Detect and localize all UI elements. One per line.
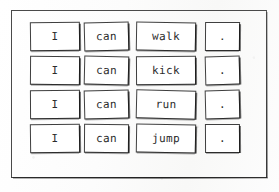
word-card-action[interactable]: kick [136,56,196,85]
word-card-label: . [219,31,226,42]
word-card-punctuation[interactable]: . [205,56,241,86]
sentence-row-4: I can jump . [0,124,279,158]
word-card-label: I [51,31,58,42]
word-card-label: I [51,65,58,76]
word-card-label: . [219,99,226,110]
word-card-label: I [51,99,58,110]
word-card-subject[interactable]: I [30,56,80,85]
word-card-label: . [219,133,226,144]
word-card-action[interactable]: walk [136,22,196,52]
word-card-label: walk [152,31,180,42]
outer-border-bottom-shadow [13,177,268,179]
worksheet-screenshot: I can walk . I can kick . I can [0,0,279,192]
word-card-subject[interactable]: I [30,124,80,154]
word-card-subject[interactable]: I [30,22,80,52]
sentence-row-1: I can walk . [0,22,279,56]
word-card-label: jump [152,133,180,144]
word-card-subject[interactable]: I [30,90,80,119]
word-card-verb[interactable]: can [84,21,130,51]
word-card-label: can [96,65,117,76]
word-card-label: I [51,133,58,144]
word-card-action[interactable]: jump [136,124,196,154]
word-card-label: . [219,65,226,76]
word-card-verb[interactable]: can [84,55,130,85]
word-card-label: kick [152,65,180,76]
word-card-action[interactable]: run [136,89,197,119]
sentence-row-3: I can run . [0,90,279,124]
word-card-verb[interactable]: can [84,89,130,119]
word-card-label: can [96,133,117,144]
sentence-row-2: I can kick . [0,56,279,90]
word-card-verb[interactable]: can [84,124,129,153]
word-card-punctuation[interactable]: . [205,90,241,120]
word-card-punctuation[interactable]: . [205,124,240,153]
word-card-label: can [96,99,117,111]
word-card-label: can [96,31,117,43]
word-card-label: run [155,99,176,110]
word-card-punctuation[interactable]: . [205,22,240,51]
